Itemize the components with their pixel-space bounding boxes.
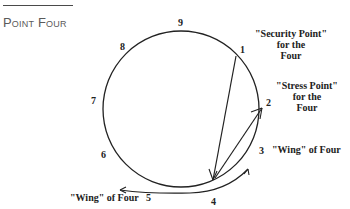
stress-label-line2: for the (272, 91, 342, 102)
stress-point-label: "Stress Point" for the Four (272, 80, 342, 113)
stress-label-line1: "Stress Point" (272, 80, 342, 91)
security-label-line3: Four (246, 50, 336, 61)
enneagram-circle (103, 31, 259, 187)
wing-right-label: "Wing" of Four (272, 144, 350, 155)
security-point-label: "Security Point" for the Four (246, 28, 336, 61)
point-7: 7 (91, 95, 96, 106)
point-8: 8 (120, 41, 125, 52)
wing-arc (120, 169, 248, 193)
point-4: 4 (211, 196, 216, 207)
security-label-line1: "Security Point" (246, 28, 336, 39)
security-line (213, 56, 236, 180)
security-label-line2: for the (246, 39, 336, 50)
stress-line (215, 108, 262, 178)
point-2: 2 (266, 97, 271, 108)
wing-left-label: "Wing" of Four (70, 192, 150, 203)
stress-label-line3: Four (272, 102, 342, 113)
point-6: 6 (101, 149, 106, 160)
point-1: 1 (240, 44, 245, 55)
point-3: 3 (259, 145, 264, 156)
point-9: 9 (178, 17, 183, 28)
